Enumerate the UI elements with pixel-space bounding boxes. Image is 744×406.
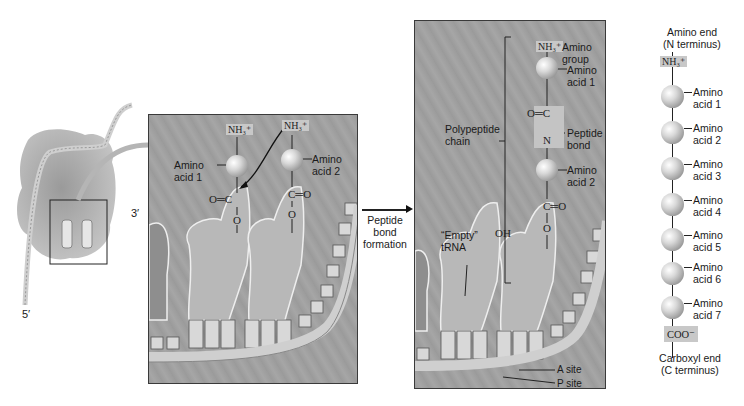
chain-ball-2 — [661, 121, 684, 144]
p-site-label: P site — [557, 378, 582, 390]
leader-line — [684, 92, 692, 93]
aa2-carbonyl: C═O — [288, 188, 311, 200]
peptide-nitrogen: N — [543, 134, 551, 146]
aa2-label: Amino acid 2 — [312, 153, 342, 177]
chain-ball-3 — [661, 157, 684, 180]
amino-end-label: Amino end (N terminus) — [652, 26, 732, 50]
chain-aa-2-label: Aminoacid 2 — [693, 122, 723, 146]
aa1-oxygen-link: O — [233, 214, 241, 226]
five-prime-label: 5′ — [22, 308, 30, 320]
arrow-right-icon — [406, 205, 413, 213]
empty-trna-label: “Empty” tRNA — [441, 229, 478, 253]
chain-aa-7-label: Aminoacid 7 — [693, 297, 723, 321]
leader-line — [684, 235, 692, 236]
aa1-amino-group: NH₃⁺ — [226, 124, 253, 135]
chain-ball-1 — [661, 85, 684, 108]
leader-line — [684, 303, 692, 304]
chain-ball-5 — [661, 228, 684, 251]
after-aa2-ball — [536, 159, 558, 181]
chain-aa-4-label: Aminoacid 4 — [693, 194, 723, 218]
chain-ball-4 — [661, 193, 684, 216]
a-site-label: A site — [557, 364, 581, 376]
after-aa2-label: Amino acid 2 — [567, 164, 597, 188]
leader-line — [684, 128, 692, 129]
aa2-amino-group: NH₃⁺ — [282, 120, 309, 131]
aa1-carbonyl: O═C — [209, 193, 232, 205]
after-aa1-label: Amino acid 1 — [567, 64, 597, 88]
amino-group-chem: NH₃⁺ — [536, 41, 563, 52]
amino-acid-2-ball — [281, 149, 303, 171]
aa2-oxygen-link: O — [288, 208, 296, 220]
aa1-label: Amino acid 1 — [174, 159, 204, 183]
hydroxyl-label: OH — [495, 227, 511, 239]
transition-arrow-line — [362, 209, 408, 211]
leader-line — [684, 267, 692, 268]
amino-group-label: Amino group — [562, 41, 592, 65]
chain-ball-6 — [661, 262, 684, 285]
transition-label: Peptide bond formation — [360, 214, 410, 250]
amino-acid-1-ball — [226, 155, 248, 177]
after-aa1-ball — [536, 57, 558, 79]
chain-aa-1-label: Aminoacid 1 — [693, 86, 723, 110]
ribosome-overview-illustration — [0, 100, 160, 360]
panel-before-bond: NH₃⁺ NH₃⁺ Amino acid 1 Amino acid 2 O═C … — [148, 114, 358, 384]
n-terminus-group: NH₃⁺ — [660, 56, 687, 67]
after-oxygen-link: O — [543, 222, 551, 234]
chain-aa-5-label: Aminoacid 5 — [693, 229, 723, 253]
c-terminus-group: COO⁻ — [664, 326, 698, 342]
chain-aa-6-label: Aminoacid 6 — [693, 261, 723, 285]
polypeptide-chain-label: Polypeptide chain — [445, 123, 500, 147]
panel-after-bond: NH₃⁺ Amino group Amino acid 1 O═C N Pept… — [414, 20, 606, 389]
chain-aa-3-label: Aminoacid 3 — [693, 158, 723, 182]
carboxyl-end-label: Carboxyl end (C terminus) — [650, 352, 730, 376]
chain-ball-7 — [661, 296, 684, 319]
three-prime-label: 3′ — [131, 207, 139, 219]
leader-line — [684, 164, 692, 165]
after-carbonyl: C═O — [543, 200, 566, 212]
peptide-bond-label: Peptide bond — [567, 127, 603, 151]
peptide-carbonyl: O═C — [527, 107, 550, 119]
leader-line — [684, 200, 692, 201]
